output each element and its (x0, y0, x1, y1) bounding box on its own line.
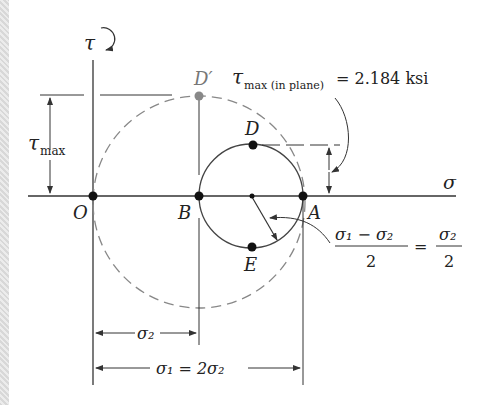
tau-axis-label: τ (84, 31, 96, 55)
radius-rhs-numerator: σ₂ (439, 225, 456, 244)
label-E: E (243, 254, 257, 275)
label-B: B (177, 202, 191, 223)
label-O: O (73, 202, 88, 223)
sigma-axis-label: σ (443, 171, 457, 193)
tau-inplane-subscript: max (in plane) (244, 79, 324, 92)
sigma1-dimension-label: σ₁ = 2σ₂ (156, 359, 224, 378)
point-B (195, 192, 204, 201)
point-center (250, 194, 255, 199)
tau-inplane-symbol: τ (232, 65, 244, 89)
point-D-prime (195, 92, 204, 101)
sigma2-dimension-label: σ₂ (137, 324, 154, 343)
point-O (89, 192, 98, 201)
tau-inplane-value: = 2.184 ksi (336, 69, 428, 88)
radius-equals: = (414, 237, 427, 256)
inplane-leader-arrow (332, 98, 349, 172)
tau-max-subscript: max (40, 144, 66, 158)
point-E (248, 243, 257, 252)
tau-rotation-arrow-icon (101, 28, 115, 50)
radius-rhs-denominator: 2 (444, 252, 454, 271)
point-D (249, 141, 258, 150)
tau-max-symbol: τ (28, 131, 40, 155)
mohr-circle-diagram: τ σ O B A D E D′ τ max τ max (in plane) … (0, 0, 483, 405)
radius-numerator: σ₁ − σ₂ (335, 225, 393, 244)
label-A: A (306, 202, 321, 223)
radius-arrow (252, 197, 277, 240)
label-D-prime: D′ (193, 68, 213, 89)
radius-denominator: 2 (366, 252, 376, 271)
label-D: D (244, 118, 260, 139)
point-A (299, 192, 308, 201)
